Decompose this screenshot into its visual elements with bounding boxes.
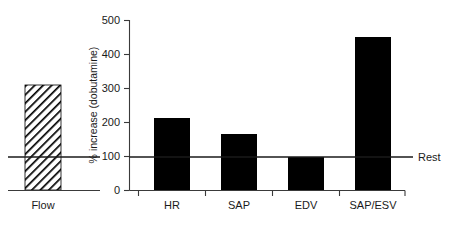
bar-hr [154,118,190,190]
y-axis-title: % increase (dobutamine) [87,47,99,164]
bar-sap [221,134,257,190]
rest-reference-label: Rest [418,151,441,163]
y-tick-label-300: 300 [102,82,120,94]
y-tick-label-500: 500 [102,14,120,26]
category-label-hr: HR [164,199,180,211]
bar-sap-esv [355,37,391,190]
category-label-edv: EDV [295,199,318,211]
category-label-flow: Flow [31,199,54,211]
bar-chart-svg: Flow 500 400 300 200 100 0 % increase (d… [0,0,451,230]
category-label-sap-esv: SAP/ESV [349,199,397,211]
y-tick-label-200: 200 [102,116,120,128]
category-label-sap: SAP [228,199,250,211]
y-tick-label-400: 400 [102,48,120,60]
y-tick-label-0: 0 [114,184,120,196]
chart-figure: Flow 500 400 300 200 100 0 % increase (d… [0,0,451,230]
bar-edv [288,157,324,190]
y-tick-label-100: 100 [102,150,120,162]
bar-flow [25,85,61,190]
